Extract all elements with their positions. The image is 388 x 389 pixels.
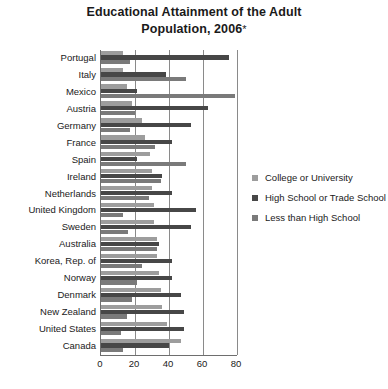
bar xyxy=(101,247,157,251)
bar xyxy=(101,186,152,190)
y-tick-label-norway: Norway xyxy=(0,273,96,283)
bar-group xyxy=(101,152,237,169)
bar xyxy=(101,196,149,200)
y-tick-label-italy: Italy xyxy=(0,70,96,80)
bar xyxy=(101,203,154,207)
legend-label: High School or Trade School xyxy=(265,192,386,203)
x-tick-label-0: 0 xyxy=(88,358,112,369)
y-tick-label-spain: Spain xyxy=(0,155,96,165)
bar xyxy=(101,271,159,275)
bar xyxy=(101,225,191,229)
bar xyxy=(101,230,128,234)
chart-title-line-1: Educational Attainment of the Adult xyxy=(0,4,388,21)
y-tick-label-portugal: Portugal xyxy=(0,53,96,63)
x-tick-label-60: 60 xyxy=(190,358,214,369)
bar xyxy=(101,220,154,224)
bar xyxy=(101,128,130,132)
bar xyxy=(101,123,191,127)
bar-group xyxy=(101,135,237,152)
bar xyxy=(101,101,132,105)
legend-item[interactable]: High School or Trade School xyxy=(252,192,386,203)
bar xyxy=(101,213,123,217)
bar-group xyxy=(101,321,237,338)
legend-swatch-icon xyxy=(252,215,258,221)
bar-group xyxy=(101,118,237,135)
bar xyxy=(101,254,157,258)
bar xyxy=(101,60,130,64)
bar-group xyxy=(101,287,237,304)
y-tick-label-mexico: Mexico xyxy=(0,87,96,97)
bar xyxy=(101,51,123,55)
bar xyxy=(101,322,167,326)
y-tick-label-korea-rep-of: Korea, Rep. of xyxy=(0,256,96,266)
x-tick-label-20: 20 xyxy=(122,358,146,369)
bar xyxy=(101,343,169,347)
bar xyxy=(101,305,162,309)
bar xyxy=(101,55,229,59)
bar-group xyxy=(101,219,237,236)
y-tick-label-germany: Germany xyxy=(0,121,96,131)
bar xyxy=(101,118,142,122)
chart-title: Educational Attainment of the Adult Popu… xyxy=(0,4,388,38)
bar-group xyxy=(101,253,237,270)
chart-legend: College or UniversityHigh School or Trad… xyxy=(252,172,386,223)
bar xyxy=(101,327,184,331)
bar-group xyxy=(101,50,237,67)
y-tick-label-canada: Canada xyxy=(0,341,96,351)
y-tick-label-sweden: Sweden xyxy=(0,222,96,232)
legend-item[interactable]: College or University xyxy=(252,172,386,183)
y-tick-label-australia: Australia xyxy=(0,239,96,249)
gridline-x-80 xyxy=(237,50,238,355)
bar xyxy=(101,242,159,246)
bar xyxy=(101,106,208,110)
bar xyxy=(101,140,172,144)
bar-group xyxy=(101,203,237,220)
bar xyxy=(101,339,181,343)
bar xyxy=(101,68,123,72)
bar-group xyxy=(101,67,237,84)
bar xyxy=(101,314,127,318)
legend-swatch-icon xyxy=(252,195,258,201)
bar xyxy=(101,310,184,314)
y-tick-label-united-kingdom: United Kingdom xyxy=(0,205,96,215)
y-tick-label-new-zealand: New Zealand xyxy=(0,307,96,317)
x-axis-line xyxy=(100,355,237,356)
y-tick-label-austria: Austria xyxy=(0,104,96,114)
bar xyxy=(101,162,186,166)
bar xyxy=(101,169,152,173)
bar-group xyxy=(101,101,237,118)
bar xyxy=(101,135,145,139)
bar xyxy=(101,179,161,183)
bar xyxy=(101,89,137,93)
bar xyxy=(101,94,235,98)
bar xyxy=(101,145,155,149)
bar xyxy=(101,297,132,301)
legend-label: College or University xyxy=(265,172,353,183)
bar xyxy=(101,174,162,178)
bar xyxy=(101,264,142,268)
y-tick-label-netherlands: Netherlands xyxy=(0,189,96,199)
bar xyxy=(101,280,137,284)
bar xyxy=(101,157,137,161)
bar xyxy=(101,331,121,335)
plot-area xyxy=(100,50,237,355)
bar xyxy=(101,293,181,297)
bar xyxy=(101,152,150,156)
legend-item[interactable]: Less than High School xyxy=(252,212,386,223)
bar xyxy=(101,84,127,88)
bar-group xyxy=(101,338,237,355)
bar xyxy=(101,72,166,76)
bar xyxy=(101,77,186,81)
y-tick-label-united-states: United States xyxy=(0,324,96,334)
bar-group xyxy=(101,270,237,287)
bar-group xyxy=(101,304,237,321)
bar xyxy=(101,208,196,212)
y-tick-label-denmark: Denmark xyxy=(0,290,96,300)
bar xyxy=(101,288,161,292)
y-tick-label-ireland: Ireland xyxy=(0,172,96,182)
bar xyxy=(101,191,172,195)
bar xyxy=(101,237,157,241)
bar xyxy=(101,348,123,352)
bar-group xyxy=(101,186,237,203)
chart-title-line-2: Population, 2006* xyxy=(0,21,388,38)
